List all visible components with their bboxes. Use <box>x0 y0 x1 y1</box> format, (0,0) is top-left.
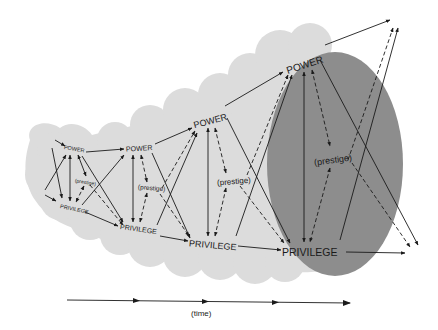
stage-4-privilege: PRIVILEGE <box>282 246 337 258</box>
power-privilege-prestige-diagram: POWER (prestige) PRIVILEGE POWER (presti… <box>0 0 438 330</box>
time-axis-label: (time) <box>191 309 212 318</box>
time-axis: (time) <box>67 298 351 318</box>
stage-2-power: POWER <box>126 144 153 152</box>
